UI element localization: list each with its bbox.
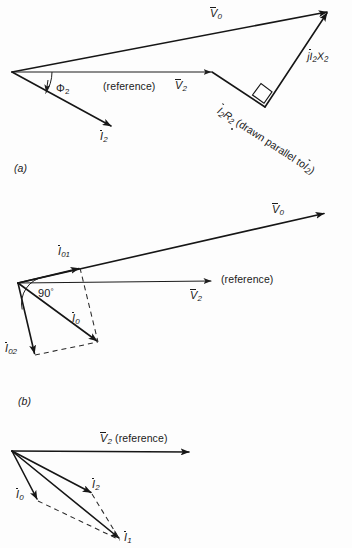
dashed-i02-to-i0-b [35,342,98,355]
panel-a-vectors [12,12,327,126]
panel-c-vectors [12,451,189,540]
caption-b: (b) [18,396,31,407]
vector-i1-c [12,451,119,538]
label-i2-c: I2 [92,479,100,492]
label-ninety-degrees-b: 90° [38,288,54,299]
label-i0-c: I0 [16,489,24,502]
label-i1-c: I1 [124,532,132,545]
label-reference-a: (reference) [103,81,155,92]
vector-v2-b [18,281,211,283]
panel-b-vectors [18,214,324,356]
label-v0-a: V0 [210,8,222,21]
label-i02-b: I02 [5,343,17,356]
label-v2-reference-c: V2 (reference) [100,433,168,446]
label-v2-a: V2 [175,80,187,93]
label-ji2x2-a: jI2X2 [307,50,328,64]
label-i01-b: I01 [58,246,70,259]
label-i2-a: I2 [100,131,108,144]
label-i0-b: I0 [72,313,80,326]
label-v2-b: V2 [190,290,202,303]
caption-a: (a) [14,163,27,174]
vector-i2-c [12,451,91,493]
label-phi2-a: Φ2 [56,83,69,96]
vector-i01-b [18,269,79,284]
phasor-figure: V0 (reference) V2 I2 Φ2 jI2X2 I2R2 (draw… [0,0,352,548]
vector-v0-a [12,12,327,72]
label-v0-b: V0 [272,204,284,217]
label-reference-b: (reference) [221,274,273,285]
vector-v2-c [12,451,189,452]
vector-i2-a [12,72,111,126]
stray-dot-mark-a [231,128,233,130]
